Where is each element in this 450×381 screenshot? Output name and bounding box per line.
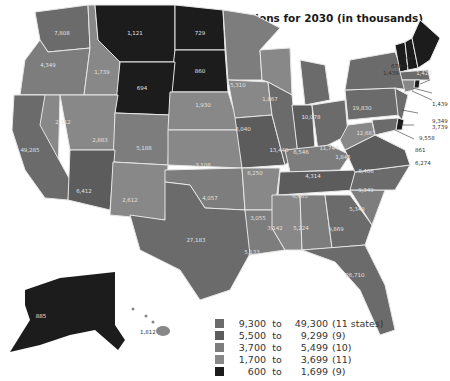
label-mo: 6,250 <box>247 170 263 176</box>
state-az <box>68 150 115 210</box>
legend-row: 3,700 to 5,499 (10) <box>215 341 384 353</box>
legend-low: 9,300 <box>228 318 266 329</box>
label-tx: 27,183 <box>186 237 205 243</box>
label-ks: 3,108 <box>195 162 211 168</box>
state-ne <box>168 92 240 130</box>
label-ia: 3,040 <box>235 126 251 132</box>
label-va: 8,466 <box>358 168 374 174</box>
state-me <box>412 20 440 68</box>
label-mi: 10,078 <box>301 114 320 120</box>
legend-row: 5,500 to 9,299 (9) <box>215 329 384 341</box>
legend-count: (11 states) <box>332 318 384 329</box>
legend-to: to <box>266 366 288 377</box>
label-me: 1,423 <box>416 70 432 76</box>
label-pa: 12,683 <box>356 130 375 136</box>
legend-count: (9) <box>332 366 345 377</box>
label-nh: 1,439 <box>383 70 399 76</box>
legend-low: 3,700 <box>228 342 266 353</box>
state-hi <box>156 326 170 336</box>
label-ms: 3,142 <box>267 225 283 231</box>
label-nv: 2,312 <box>55 119 71 125</box>
label-ct: 3,739 <box>432 124 448 130</box>
legend-swatch <box>215 343 224 352</box>
label-mt: 1,121 <box>127 30 143 36</box>
label-wy: 694 <box>137 85 148 91</box>
label-il: 13,440 <box>269 147 288 153</box>
label-ca: 49,285 <box>20 147 39 153</box>
label-co: 5,188 <box>136 145 152 151</box>
legend-row: 1,700 to 3,699 (11) <box>215 353 384 365</box>
legend-low: 600 <box>228 366 266 377</box>
label-tn: 6,665 <box>292 193 308 199</box>
label-ga: 9,869 <box>328 226 344 232</box>
label-ky: 4,314 <box>305 173 321 179</box>
label-ut: 2,883 <box>92 137 108 143</box>
legend-row: 9,300 to 49,300 (11 states) <box>215 317 384 329</box>
legend-to: to <box>266 330 288 341</box>
label-wi: 1,867 <box>262 96 278 102</box>
legend-swatch <box>215 367 224 376</box>
state-ct <box>402 80 415 92</box>
label-hi: 1,812 <box>140 329 156 335</box>
state-co <box>113 113 170 165</box>
label-az: 6,412 <box>76 188 92 194</box>
legend-count: (11) <box>332 354 352 365</box>
legend-to: to <box>266 318 288 329</box>
state-de <box>396 118 404 130</box>
label-oh: 11,744 <box>319 145 338 151</box>
label-ne: 1,930 <box>195 102 211 108</box>
label-or: 4,349 <box>40 62 56 68</box>
label-md: 6,274 <box>415 160 431 166</box>
state-nd <box>175 5 225 50</box>
state-ri <box>414 80 420 88</box>
legend-swatch <box>215 331 224 340</box>
label-nm: 2,612 <box>122 197 138 203</box>
legend-low: 1,700 <box>228 354 266 365</box>
legend-count: (10) <box>332 342 352 353</box>
label-ri: 1,439 <box>432 101 448 107</box>
label-la: 5,133 <box>244 249 260 255</box>
label-id: 1,739 <box>94 69 110 75</box>
legend-row: 600 to 1,699 (9) <box>215 365 384 377</box>
label-nj: 9,558 <box>419 135 435 141</box>
state-pa <box>345 88 400 120</box>
label-wa: 7,808 <box>54 30 70 36</box>
label-nc: 9,349 <box>358 187 374 193</box>
label-al: 5,224 <box>293 225 309 231</box>
state-md <box>372 118 398 135</box>
legend-high: 5,499 <box>288 342 328 353</box>
state-mi <box>300 60 330 105</box>
label-mn: 5,310 <box>230 82 246 88</box>
label-ak: 885 <box>36 313 47 319</box>
label-wv: 1,845 <box>335 154 351 160</box>
label-ny: 19,830 <box>352 105 371 111</box>
label-nd: 729 <box>195 30 206 36</box>
label-de: 861 <box>415 147 426 153</box>
legend-high: 9,299 <box>288 330 328 341</box>
legend-to: to <box>266 354 288 365</box>
legend-to: to <box>266 342 288 353</box>
legend-high: 3,699 <box>288 354 328 365</box>
legend-count: (9) <box>332 330 345 341</box>
state-ak <box>10 272 125 352</box>
legend: 9,300 to 49,300 (11 states) 5,500 to 9,2… <box>215 317 384 377</box>
label-in: 6,546 <box>293 149 309 155</box>
label-sd: 860 <box>195 68 206 74</box>
legend-swatch <box>215 355 224 364</box>
label-sc: 5,349 <box>349 206 365 212</box>
state-nm <box>110 162 168 220</box>
legend-high: 1,699 <box>288 366 328 377</box>
label-vt: 678 <box>391 63 402 69</box>
legend-swatch <box>215 319 224 328</box>
legend-high: 49,300 <box>288 318 328 329</box>
label-ok: 4,057 <box>202 195 218 201</box>
label-ar: 3,055 <box>250 215 266 221</box>
label-fl: 26,710 <box>345 272 364 278</box>
legend-low: 5,500 <box>228 330 266 341</box>
